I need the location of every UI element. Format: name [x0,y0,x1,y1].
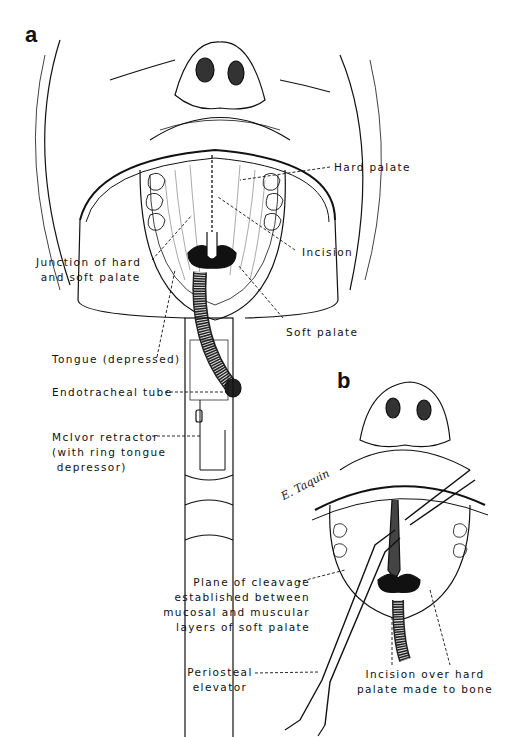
label-soft-palate: Soft palate [286,325,358,340]
label-incision-over-hard-palate: Incision over hard palate made to bone [345,667,505,697]
panel-b-letter: b [337,368,350,394]
label-plane-of-cleavage: Plane of cleavage established between mu… [150,575,310,635]
label-junction-hard-soft-palate: Junction of hard and soft palate [36,255,141,285]
label-periosteal-elevator: Periosteal elevator [180,665,260,695]
label-endotracheal-tube: Endotracheal tube [52,385,173,400]
label-mcivor-retractor: McIvor retractor (with ring tongue depre… [52,430,166,475]
label-tongue-depressed: Tongue (depressed) [52,352,181,367]
label-incision: Incision [302,245,353,260]
label-hard-palate: Hard palate [334,160,411,175]
panel-a-letter: a [25,22,37,48]
